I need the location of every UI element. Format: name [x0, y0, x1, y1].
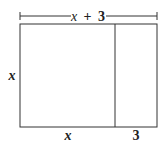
top-label-op: + [84, 9, 92, 24]
bottom-left-label: x [64, 128, 72, 143]
outer-rectangle [20, 24, 157, 127]
top-label-num: 3 [98, 9, 105, 24]
area-diagram: x + 3 x x 3 [0, 0, 164, 146]
bottom-right-label: 3 [133, 128, 140, 143]
left-label: x [8, 68, 16, 83]
top-label: x + 3 [70, 9, 105, 24]
top-label-var: x [70, 9, 78, 24]
